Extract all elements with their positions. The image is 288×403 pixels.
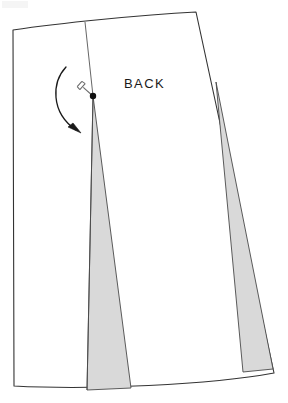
pivot-point-dot: [90, 93, 96, 99]
page-title: BACK: [124, 76, 165, 91]
pattern-drawing-canvas: [0, 0, 288, 403]
pattern-diagram: BACK: [0, 0, 288, 403]
